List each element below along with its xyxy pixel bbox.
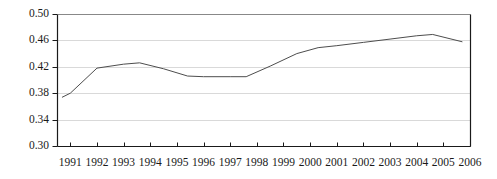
x-axis-tick-label: 2006 bbox=[459, 157, 482, 169]
plot-frame bbox=[58, 15, 471, 147]
x-axis-tick-label: 1992 bbox=[85, 157, 108, 169]
x-axis-tick-label: 2000 bbox=[299, 157, 322, 169]
x-axis-tick-label: 2004 bbox=[405, 157, 428, 169]
y-axis-tick-label: 0.30 bbox=[29, 140, 49, 152]
data-series bbox=[62, 34, 462, 97]
x-axis-tick-label: 2002 bbox=[352, 157, 375, 169]
series-line-1 bbox=[62, 34, 462, 97]
chart-canvas bbox=[0, 0, 497, 179]
x-axis-tick-label: 2001 bbox=[325, 157, 348, 169]
x-axis-tick-label: 2003 bbox=[379, 157, 402, 169]
x-axis-tick-label: 1991 bbox=[59, 157, 82, 169]
x-axis-tick-label: 1997 bbox=[219, 157, 242, 169]
y-axis-ticks bbox=[53, 15, 58, 147]
y-axis-tick-label: 0.38 bbox=[29, 87, 49, 99]
y-axis-tick-label: 0.42 bbox=[29, 61, 49, 73]
x-axis-tick-label: 1995 bbox=[165, 157, 188, 169]
x-axis-tick-label: 2005 bbox=[432, 157, 455, 169]
line-chart-figure: 0.500.460.420.380.340.30 199119921993199… bbox=[0, 0, 497, 179]
y-axis-tick-label: 0.50 bbox=[29, 8, 49, 20]
y-axis-tick-label: 0.34 bbox=[29, 114, 49, 126]
x-axis-tick-label: 1998 bbox=[245, 157, 268, 169]
x-axis-tick-label: 1999 bbox=[272, 157, 295, 169]
x-axis-tick-label: 1994 bbox=[139, 157, 162, 169]
x-axis-tick-label: 1996 bbox=[192, 157, 215, 169]
gridlines bbox=[57, 41, 470, 121]
x-axis-ticks bbox=[71, 143, 471, 147]
y-axis-tick-label: 0.46 bbox=[29, 35, 49, 47]
x-axis-tick-label: 1993 bbox=[112, 157, 135, 169]
